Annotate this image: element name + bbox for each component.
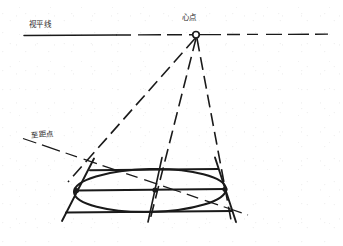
node-right-tangent bbox=[222, 187, 227, 192]
grid-transversal-middle bbox=[77, 189, 226, 191]
perspective-construction-drawing bbox=[0, 0, 343, 246]
center-point-circle bbox=[193, 32, 200, 39]
horizon-line-solid-segment bbox=[24, 35, 116, 36]
perspective-diagram-figure: 视平线 心点 至距点 bbox=[0, 0, 343, 246]
orthogonal-rays-group bbox=[68, 39, 231, 221]
node-left-tangent bbox=[74, 188, 79, 193]
distance-point-label: 至距点 bbox=[31, 130, 54, 139]
horizon-line-label: 视平线 bbox=[29, 21, 51, 29]
horizon-line-group bbox=[24, 34, 333, 35]
orthogonal-ray-center bbox=[150, 39, 196, 221]
node-center-tangent bbox=[152, 187, 157, 192]
center-point-label: 心点 bbox=[182, 14, 197, 22]
center-point-marker-group bbox=[193, 32, 200, 39]
